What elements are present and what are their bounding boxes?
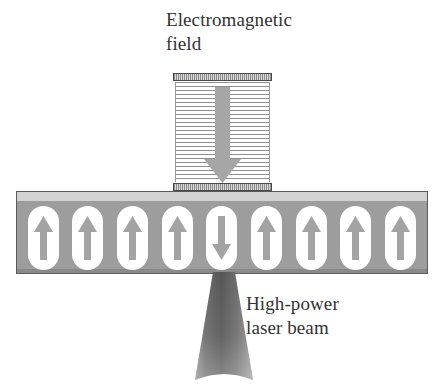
- magnetic-domain-down-reversed: [206, 206, 237, 270]
- electromagnetic-field-coil: [173, 73, 272, 191]
- field-coil-hatched-body: [175, 82, 270, 182]
- arrow-up-icon: [162, 206, 193, 270]
- arrow-up-icon: [72, 206, 103, 270]
- magnetic-domain-up: [28, 206, 59, 270]
- magneto-optical-recording-figure: Electromagnetic field: [0, 0, 440, 391]
- slab-top-highlight: [17, 192, 427, 201]
- magnetic-domain-up: [296, 206, 327, 270]
- arrow-up-icon: [296, 206, 327, 270]
- magnetic-domain-up: [340, 206, 371, 270]
- magnetic-domain-up: [162, 206, 193, 270]
- electromagnetic-field-label: Electromagnetic field: [166, 8, 292, 56]
- arrow-up-icon: [117, 206, 148, 270]
- arrow-up-icon: [385, 206, 416, 270]
- arrow-up-icon: [340, 206, 371, 270]
- magnetic-domain-up: [251, 206, 282, 270]
- laser-beam-label: High-power laser beam: [246, 292, 339, 340]
- arrow-up-icon: [251, 206, 282, 270]
- field-coil-bottom-cap: [173, 183, 272, 191]
- arrow-down-icon: [206, 206, 237, 270]
- magnetic-domain-up: [117, 206, 148, 270]
- field-coil-top-cap: [173, 73, 272, 81]
- magnetic-domain-row: [17, 201, 427, 275]
- arrow-up-icon: [28, 206, 59, 270]
- magnetic-domain-up: [72, 206, 103, 270]
- magnetic-domain-up: [385, 206, 416, 270]
- magnetic-recording-layer: [16, 191, 428, 274]
